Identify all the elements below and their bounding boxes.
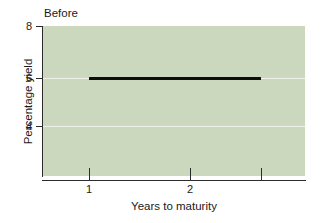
y-tick-mark-8 — [36, 26, 43, 27]
data-series-line — [89, 77, 261, 80]
gridline-y4 — [43, 126, 305, 127]
y-tick-mark-6 — [36, 78, 43, 79]
x-axis-title: Years to maturity — [43, 200, 305, 213]
y-axis-line — [42, 26, 43, 177]
x-tick-label-2: 2 — [178, 183, 202, 195]
y-axis-title: Percentage yield — [22, 27, 35, 177]
x-axis-line — [42, 180, 306, 181]
x-tick-mark-2 — [190, 168, 191, 180]
chart-figure: Before 8 6 4 1 2 Percentage yield Years … — [0, 0, 331, 223]
x-tick-mark-right — [261, 168, 262, 180]
y-tick-mark-4 — [36, 126, 43, 127]
chart-title: Before — [44, 7, 78, 20]
x-tick-label-1: 1 — [77, 183, 101, 195]
x-tick-mark-1 — [89, 168, 90, 180]
plot-area — [43, 26, 305, 176]
